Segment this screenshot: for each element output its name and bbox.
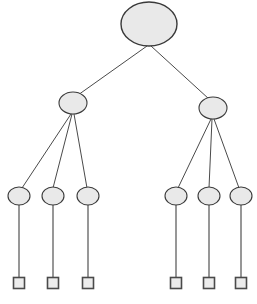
node-layer xyxy=(8,2,252,289)
tree-edge-n2-to-l4 xyxy=(178,119,211,188)
tree-node-n1-ellipse[interactable] xyxy=(59,92,87,114)
tree-node-l1-ellipse[interactable] xyxy=(8,187,30,205)
tree-node-root-ellipse[interactable] xyxy=(121,2,177,46)
tree-edge-n1-to-l1 xyxy=(22,114,71,188)
tree-diagram-svg xyxy=(0,0,257,304)
tree-node-s1-square[interactable] xyxy=(14,278,25,289)
tree-node-l6-ellipse[interactable] xyxy=(230,187,252,205)
tree-edge-n2-to-l6 xyxy=(214,119,239,188)
tree-node-s5-square[interactable] xyxy=(204,278,215,289)
tree-node-l2-ellipse[interactable] xyxy=(42,187,64,205)
tree-node-s2-square[interactable] xyxy=(48,278,59,289)
tree-diagram-canvas xyxy=(0,0,257,304)
tree-edge-n1-to-l2 xyxy=(53,114,72,188)
tree-node-l3-ellipse[interactable] xyxy=(77,187,99,205)
tree-node-l4-ellipse[interactable] xyxy=(165,187,187,205)
tree-node-l5-ellipse[interactable] xyxy=(198,187,220,205)
tree-edge-n1-to-l3 xyxy=(74,114,87,188)
tree-edge-n2-to-l5 xyxy=(209,119,212,188)
tree-node-s6-square[interactable] xyxy=(236,278,247,289)
tree-edge-root-to-n1 xyxy=(78,46,147,95)
edge-layer xyxy=(19,46,241,278)
tree-node-n2-ellipse[interactable] xyxy=(199,97,227,119)
tree-node-s4-square[interactable] xyxy=(171,278,182,289)
tree-node-s3-square[interactable] xyxy=(83,278,94,289)
tree-edge-root-to-n2 xyxy=(151,46,209,99)
